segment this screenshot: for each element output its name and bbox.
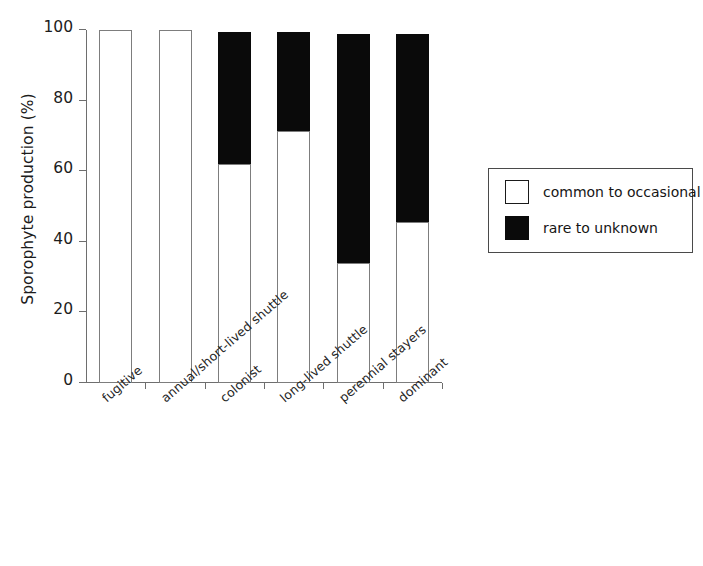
- bar-segment-common-to-occasional: [396, 222, 429, 383]
- bar-annual-short-lived-shuttle[interactable]: [159, 30, 192, 383]
- x-axis-tick: [442, 383, 443, 389]
- bar-segment-common-to-occasional: [99, 30, 132, 383]
- y-axis-line: [86, 30, 87, 383]
- white-square-swatch-icon: [505, 180, 529, 204]
- chart-figure: Sporophyte production (%) 020406080100 f…: [0, 0, 703, 566]
- y-axis-tick-label: 60: [53, 159, 73, 177]
- x-axis-tick: [205, 383, 206, 389]
- black-square-swatch-icon: [505, 216, 529, 240]
- bar-segment-rare-to-unknown: [396, 34, 429, 223]
- bar-segment-rare-to-unknown: [218, 32, 251, 164]
- y-axis-tick: 40: [79, 241, 86, 242]
- bar-fugitive[interactable]: [99, 30, 132, 383]
- x-axis-tick: [264, 383, 265, 389]
- y-axis-tick-label: 80: [53, 89, 73, 107]
- y-axis-tick: 0: [79, 382, 86, 383]
- bar-long-lived-shuttle[interactable]: [277, 32, 310, 383]
- y-axis-tick: 100: [79, 29, 86, 30]
- legend-label: common to occasional: [543, 184, 701, 200]
- legend-item-rare-to-unknown: rare to unknown: [505, 215, 658, 241]
- y-axis-tick: 20: [79, 311, 86, 312]
- x-axis-tick: [145, 383, 146, 389]
- legend-label: rare to unknown: [543, 220, 658, 236]
- plot-area: 020406080100: [86, 30, 442, 383]
- x-axis-tick: [383, 383, 384, 389]
- y-axis-title: Sporophyte production (%): [19, 59, 37, 339]
- y-axis-tick: 60: [79, 170, 86, 171]
- x-axis-tick: [323, 383, 324, 389]
- bar-segment-common-to-occasional: [159, 30, 192, 383]
- chart-legend: common to occasional rare to unknown: [488, 168, 693, 253]
- legend-item-common-to-occasional: common to occasional: [505, 179, 701, 205]
- bar-segment-rare-to-unknown: [277, 32, 310, 131]
- y-axis-tick-label: 40: [53, 230, 73, 248]
- bar-segment-rare-to-unknown: [337, 34, 370, 263]
- y-axis-tick-label: 20: [53, 300, 73, 318]
- y-axis-tick: 80: [79, 100, 86, 101]
- y-axis-tick-label: 100: [43, 18, 73, 36]
- y-axis-tick-label: 0: [63, 371, 73, 389]
- bar-segment-common-to-occasional: [277, 131, 310, 383]
- bar-segment-common-to-occasional: [337, 263, 370, 383]
